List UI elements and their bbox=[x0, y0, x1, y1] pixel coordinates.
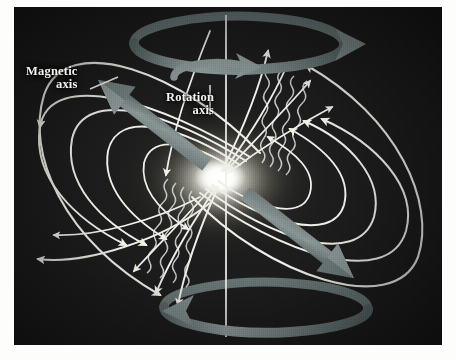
leader-magnetic bbox=[90, 77, 118, 89]
figure-root: Magnetic axis Rotation axis bbox=[0, 0, 456, 360]
label-magnetic-line2: axis bbox=[26, 78, 78, 91]
label-rotation-line2: axis bbox=[166, 104, 214, 117]
astronomy-image-panel: Magnetic axis Rotation axis bbox=[14, 7, 442, 345]
leader-lines-layer bbox=[14, 7, 442, 345]
label-rotation-line1: Rotation bbox=[166, 90, 214, 104]
label-magnetic-axis: Magnetic axis bbox=[26, 65, 78, 91]
label-rotation-axis: Rotation axis bbox=[166, 91, 214, 117]
label-magnetic-line1: Magnetic bbox=[26, 64, 78, 78]
